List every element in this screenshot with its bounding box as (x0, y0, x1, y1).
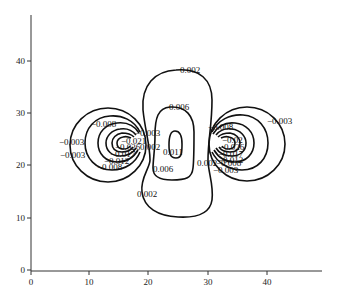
contour-label: −0.008 (97, 162, 123, 172)
contour-label: −0.003 (267, 116, 293, 126)
contour-label: −0.008 (208, 122, 234, 132)
contour-label: −0.008 (91, 119, 117, 129)
x-tick-label: 30 (204, 277, 214, 287)
contour-label: −0.003 (60, 150, 86, 160)
contour-label: 0.002 (137, 189, 157, 199)
contour-label: 0.006 (169, 102, 190, 112)
contour-label: 0.002 (180, 65, 200, 75)
contour-label: 0.002 (140, 142, 160, 152)
x-tick-label: 40 (263, 277, 273, 287)
y-tick-label: 0 (21, 265, 26, 275)
y-tick-label: 10 (16, 213, 26, 223)
x-tick-label: 10 (85, 277, 95, 287)
x-tick-label: 0 (29, 277, 34, 287)
contour-label: −0.003 (213, 165, 239, 175)
contour-label: 0.006 (153, 164, 174, 174)
x-tick-label: 20 (144, 277, 154, 287)
y-tick-label: 30 (16, 108, 26, 118)
contour-chart: 0 10 20 30 40 0 10 20 30 40 (0, 0, 337, 305)
contour-label: −0.003 (59, 137, 85, 147)
contour-label: 0.011 (163, 147, 183, 157)
y-tick-label: 20 (16, 160, 26, 170)
y-tick-label: 40 (16, 56, 26, 66)
